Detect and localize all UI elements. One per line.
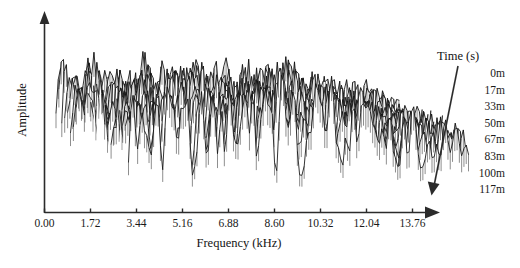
legend-entry-50m: 50m [485, 117, 506, 129]
legend-entry-117m: 117m [479, 183, 505, 195]
x-tick-label: 12.04 [354, 217, 380, 229]
x-tick-label: 3.44 [126, 217, 146, 229]
waterfall-plot-svg: 0.001.723.445.166.888.6010.3212.0413.76 … [0, 0, 520, 268]
legend-entry-0m: 0m [490, 67, 505, 79]
x-tick-label: 13.76 [400, 217, 426, 229]
legend-entry-100m: 100m [479, 167, 505, 179]
x-tick-label: 1.72 [80, 217, 100, 229]
x-axis-title: Frequency (kHz) [196, 236, 281, 250]
legend-title: Time (s) [437, 49, 479, 63]
x-tick-label: 5.16 [172, 217, 192, 229]
y-axis-title: Amplitude [15, 83, 29, 137]
x-tick-label: 6.88 [218, 217, 238, 229]
x-axis-tick-labels: 0.001.723.445.166.888.6010.3212.0413.76 [34, 217, 425, 229]
x-tick-label: 10.32 [308, 217, 334, 229]
legend-entry-83m: 83m [485, 150, 506, 162]
legend-entry-67m: 67m [485, 133, 506, 145]
waterfall-chart-figure: 0.001.723.445.166.888.6010.3212.0413.76 … [0, 0, 520, 268]
legend-entry-17m: 17m [485, 84, 506, 96]
x-tick-label: 8.60 [264, 217, 284, 229]
x-tick-label: 0.00 [34, 217, 54, 229]
legend-entry-33m: 33m [485, 100, 506, 112]
